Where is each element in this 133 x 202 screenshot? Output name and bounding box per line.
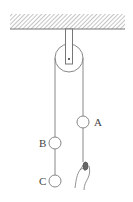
ball-c: C xyxy=(39,175,61,187)
pulley-axle xyxy=(68,58,70,60)
ceiling xyxy=(10,14,125,29)
pulley xyxy=(55,29,83,72)
label-c: C xyxy=(39,175,46,187)
label-a: A xyxy=(94,116,102,128)
hand-icon xyxy=(75,162,90,190)
ball-b: B xyxy=(39,137,61,149)
label-b: B xyxy=(39,137,46,149)
pulley-diagram: A B C xyxy=(0,0,133,202)
ball-a: A xyxy=(77,116,102,128)
